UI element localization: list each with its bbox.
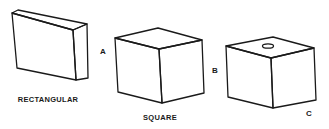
caption-rectangular: RECTANGULAR <box>18 96 79 104</box>
rectangular-block <box>12 10 88 80</box>
label-a: A <box>100 48 106 56</box>
label-c: C <box>306 110 312 118</box>
hole-icon <box>263 44 274 48</box>
label-b: B <box>212 67 218 75</box>
diagram-canvas: RECTANGULAR SQUARE A B C <box>0 0 329 129</box>
shapes-drawing <box>0 0 329 129</box>
square-block-with-hole <box>226 37 316 108</box>
square-block <box>115 28 204 103</box>
caption-square: SQUARE <box>143 114 177 122</box>
